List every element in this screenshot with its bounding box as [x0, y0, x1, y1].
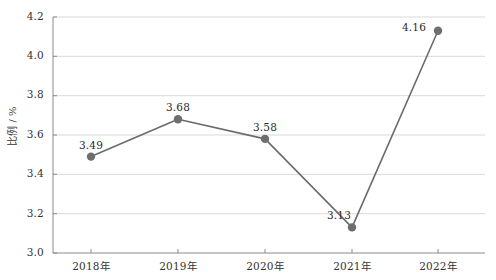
x-tick-label-2021: 2021年	[317, 258, 387, 273]
y-tick-label-4-2: 4.2	[10, 10, 44, 22]
y-tick-label-4-0: 4.0	[10, 49, 44, 61]
data-label-2018: 3.49	[71, 139, 111, 151]
y-tick-label-3-2: 3.2	[10, 207, 44, 219]
x-tick-label-2022: 2022年	[403, 258, 473, 273]
y-axis-title-text: 比例 / %	[4, 96, 19, 156]
x-tick-label-2018: 2018年	[56, 258, 126, 273]
y-tick-label-3-8: 3.8	[10, 88, 44, 100]
data-label-2019: 3.68	[158, 101, 198, 113]
x-tick-label-2019: 2019年	[143, 258, 213, 273]
x-tick-label-2020: 2020年	[230, 258, 300, 273]
line-chart: 比例 / % 4.2 4.0 3.8 3.6 3.4 3.2 3.0 2018年…	[0, 0, 496, 280]
y-tick-marks	[53, 17, 57, 253]
y-tick-label-3-4: 3.4	[10, 167, 44, 179]
y-axis-title: 比例 / %	[4, 96, 20, 156]
gridlines	[53, 17, 485, 214]
y-tick-label-3-0: 3.0	[10, 246, 44, 258]
y-tick-label-3-6: 3.6	[10, 128, 44, 140]
data-label-2022: 4.16	[394, 21, 434, 33]
data-label-2021: 3.13	[319, 209, 359, 221]
data-label-2020: 3.58	[245, 121, 285, 133]
x-tick-marks	[91, 249, 438, 253]
